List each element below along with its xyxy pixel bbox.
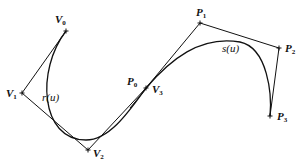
vertex-label-v2: V2 (93, 147, 104, 161)
vertex-cross-icon (277, 46, 282, 51)
curve-label-ru: r(u) (42, 91, 59, 104)
curve-label-su: s(u) (222, 42, 239, 55)
vertex-label-p0: P0 (127, 75, 138, 89)
bezier-diagram: V0V1V2V3P0P1P2P3r(u)s(u) (0, 0, 303, 166)
v-polygon-line (22, 31, 146, 150)
vertex-cross-icon (268, 114, 273, 119)
vertex-label-p2: P2 (285, 42, 296, 56)
labels: V0V1V2V3P0P1P2P3r(u)s(u) (6, 6, 296, 161)
vertex-label-v0: V0 (55, 13, 66, 27)
vertex-label-p1: P1 (196, 6, 207, 20)
vertex-label-p3: P3 (277, 110, 288, 124)
su-curve (146, 41, 270, 116)
p-polygon-line (146, 23, 279, 116)
vertex-label-v1: V1 (6, 87, 17, 101)
vertex-label-v3: V3 (152, 83, 163, 97)
